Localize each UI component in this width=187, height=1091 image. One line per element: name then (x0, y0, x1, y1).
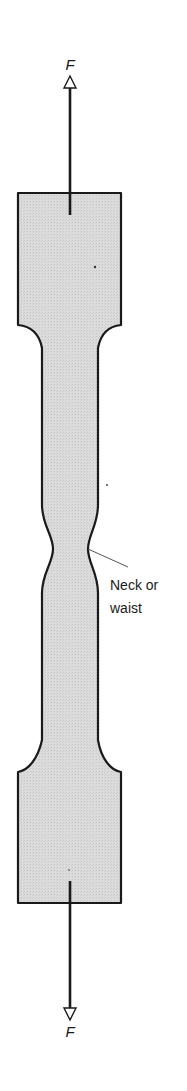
specimen-outline (18, 193, 121, 903)
arrowhead-up-icon (64, 76, 76, 88)
neck-label-line1: Neck or (110, 577, 159, 593)
neck-leader-line (88, 549, 128, 567)
neck-label-line2: waist (109, 600, 142, 616)
bottom-force-label: F (65, 1023, 75, 1040)
top-force-label: F (65, 56, 75, 73)
tensile-specimen-diagram: F F Neck or waist (0, 0, 187, 1091)
arrowhead-down-icon (64, 1008, 76, 1020)
